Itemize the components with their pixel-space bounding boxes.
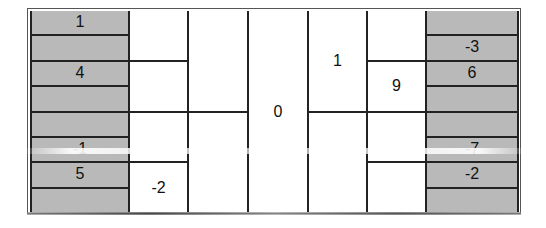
grid-cell — [32, 36, 128, 61]
col-2: -2 — [128, 11, 187, 212]
grid-cell — [368, 163, 425, 212]
merge-grid: 14-15-2019-36-7-2 — [30, 11, 519, 212]
grid-cell: 5 — [32, 163, 128, 188]
grid-cell — [32, 113, 128, 138]
grid-cell — [427, 189, 517, 212]
grid-cell: 0 — [249, 11, 307, 212]
col-3 — [187, 11, 247, 212]
col-7: -36-7-2 — [425, 11, 519, 212]
bottom-border — [27, 212, 521, 215]
grid-cell — [32, 87, 128, 112]
grid-cell: 1 — [309, 11, 366, 113]
grid-cell — [368, 113, 425, 164]
grid-cell: -2 — [427, 163, 517, 188]
grid-cell — [32, 189, 128, 212]
grid-cell: 1 — [32, 11, 128, 36]
col-1: 14-15 — [30, 11, 128, 212]
col-5: 1 — [307, 11, 366, 212]
grid-cell — [130, 113, 187, 164]
grid-cell: -3 — [427, 36, 517, 61]
grid-cell: -2 — [130, 163, 187, 212]
col-6: 9 — [366, 11, 425, 212]
grid-cell — [427, 11, 517, 36]
grid-cell — [427, 87, 517, 112]
grid-cell — [130, 11, 187, 62]
grid-cell — [427, 113, 517, 138]
grid-cell: -7 — [427, 138, 517, 163]
grid-cell: 4 — [32, 62, 128, 87]
grid-cell — [368, 11, 425, 62]
grid-cell: 9 — [368, 62, 425, 113]
grid-cell — [309, 113, 366, 213]
col-4: 0 — [247, 11, 307, 212]
grid-cell: 6 — [427, 62, 517, 87]
grid-cell — [130, 62, 187, 113]
grid-cell — [189, 113, 247, 213]
grid-cell: -1 — [32, 138, 128, 163]
grid-cell — [189, 11, 247, 113]
